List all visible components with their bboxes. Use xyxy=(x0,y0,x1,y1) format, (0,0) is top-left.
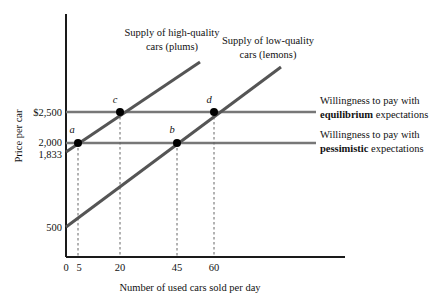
point-marker-a xyxy=(74,139,82,147)
point-label-b: b xyxy=(169,124,174,135)
point-label-d: d xyxy=(206,94,212,105)
chart-svg: a b c d $2,500 2,000 1,833 500 0 5 20 45… xyxy=(0,0,445,299)
plums-curve-label: Supply of high-quality cars (plums) xyxy=(124,27,220,53)
legend-equilibrium-tail: expectations xyxy=(373,109,428,120)
y-tick-2000: 2,000 xyxy=(38,137,62,148)
lemons-label-line2: cars (lemons) xyxy=(240,49,297,61)
lemons-curve-label: Supply of low-quality cars (lemons) xyxy=(222,35,315,61)
point-label-c: c xyxy=(113,94,118,105)
plums-supply-curve xyxy=(66,62,200,152)
legend-pessimistic-line2: pessimistic expectations xyxy=(320,143,424,154)
point-marker-b xyxy=(173,139,181,147)
y-tick-500: 500 xyxy=(46,222,62,233)
point-markers-group xyxy=(74,108,218,147)
point-marker-c xyxy=(116,108,124,116)
legend-equilibrium: Willingness to pay with equilibrium expe… xyxy=(320,95,428,120)
figure-container: a b c d $2,500 2,000 1,833 500 0 5 20 45… xyxy=(0,0,445,299)
x-axis-title: Number of used cars sold per day xyxy=(119,282,261,293)
x-tick-5: 5 xyxy=(76,262,81,273)
x-tick-60: 60 xyxy=(209,262,220,273)
legend-pessimistic-tail: expectations xyxy=(368,143,423,154)
y-tick-labels-group: $2,500 2,000 1,833 500 xyxy=(33,107,62,233)
x-tick-0: 0 xyxy=(63,262,68,273)
legend-equilibrium-bold: equilibrium xyxy=(320,109,373,120)
y-tick-2500: $2,500 xyxy=(33,107,62,118)
lemons-label-line1: Supply of low-quality xyxy=(222,35,315,46)
point-label-a: a xyxy=(69,124,74,135)
legend-pessimistic-line1: Willingness to pay with xyxy=(320,129,420,140)
x-tick-45: 45 xyxy=(172,262,183,273)
y-tick-1833: 1,833 xyxy=(38,149,62,160)
y-axis-title: Price per car xyxy=(13,109,24,163)
x-tick-labels-group: 0 5 20 45 60 xyxy=(63,262,219,273)
plums-label-line1: Supply of high-quality xyxy=(124,27,220,38)
axes-group xyxy=(66,14,345,257)
legend-pessimistic-bold: pessimistic xyxy=(320,143,369,154)
legend-equilibrium-line1: Willingness to pay with xyxy=(320,95,420,106)
lemons-supply-curve xyxy=(66,67,281,227)
legend-pessimistic: Willingness to pay with pessimistic expe… xyxy=(320,129,424,154)
plums-label-line2: cars (plums) xyxy=(146,41,199,53)
x-tick-20: 20 xyxy=(115,262,126,273)
point-marker-d xyxy=(210,108,218,116)
legend-equilibrium-line2: equilibrium expectations xyxy=(320,109,428,120)
